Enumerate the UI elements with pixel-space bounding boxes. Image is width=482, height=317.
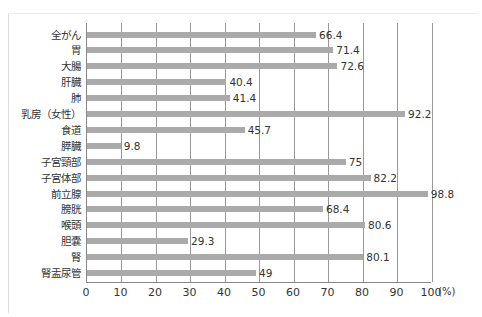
- value-label: 49: [256, 265, 272, 281]
- bar-row: 大腸72.6: [87, 58, 431, 74]
- gridline: [432, 23, 433, 282]
- value-label: 82.2: [371, 170, 397, 186]
- category-label: 全がん: [1, 27, 81, 43]
- x-tick-label: 80: [355, 286, 369, 299]
- value-label: 80.1: [363, 249, 389, 265]
- category-label: 食道: [1, 122, 81, 138]
- bar: [87, 32, 316, 38]
- category-label: 胃: [1, 42, 81, 58]
- bar: [87, 191, 428, 197]
- value-label: 9.8: [121, 138, 141, 154]
- x-tick-label: 20: [148, 286, 162, 299]
- bar-row: 食道45.7: [87, 122, 431, 138]
- bar-row: 胆嚢29.3: [87, 233, 431, 249]
- x-tick-label: 90: [390, 286, 404, 299]
- value-label: 29.3: [188, 233, 214, 249]
- bar-row: 肝臓40.4: [87, 74, 431, 90]
- bar: [87, 95, 230, 101]
- bar: [87, 79, 226, 85]
- value-label: 75: [346, 154, 362, 170]
- value-label: 45.7: [245, 122, 271, 138]
- bar-row: 子宮体部82.2: [87, 170, 431, 186]
- category-label: 前立腺: [1, 186, 81, 202]
- bar-row: 腎盂尿管49: [87, 265, 431, 281]
- bar-row: 乳房（女性）92.2: [87, 106, 431, 122]
- x-tick-label: 10: [114, 286, 128, 299]
- bar: [87, 111, 405, 117]
- x-axis-unit: (%): [438, 286, 455, 297]
- x-tick-label: 60: [286, 286, 300, 299]
- bar: [87, 270, 256, 276]
- x-tick-label: 40: [217, 286, 231, 299]
- bar: [87, 206, 323, 212]
- bar: [87, 238, 188, 244]
- value-label: 72.6: [337, 58, 363, 74]
- bar: [87, 222, 365, 228]
- value-label: 40.4: [226, 74, 252, 90]
- bar: [87, 47, 333, 53]
- x-tick-label: 70: [321, 286, 335, 299]
- bar: [87, 127, 245, 133]
- value-label: 80.6: [365, 217, 391, 233]
- bar-row: 子宮頸部75: [87, 154, 431, 170]
- plot-area: 全がん66.4胃71.4大腸72.6肝臓40.4肺41.4乳房（女性）92.2食…: [86, 23, 431, 283]
- category-label: 腎: [1, 249, 81, 265]
- bar: [87, 143, 121, 149]
- bar-row: 胃71.4: [87, 42, 431, 58]
- category-label: 腎盂尿管: [1, 265, 81, 281]
- value-label: 71.4: [333, 42, 359, 58]
- category-label: 喉頭: [1, 217, 81, 233]
- bar: [87, 63, 337, 69]
- category-label: 膀胱: [1, 201, 81, 217]
- bar-row: 腎80.1: [87, 249, 431, 265]
- bar-row: 肺41.4: [87, 90, 431, 106]
- value-label: 66.4: [316, 27, 342, 43]
- value-label: 68.4: [323, 201, 349, 217]
- bar: [87, 159, 346, 165]
- bar-row: 膵臓9.8: [87, 138, 431, 154]
- x-tick-label: 50: [252, 286, 266, 299]
- bar: [87, 254, 363, 260]
- value-label: 98.8: [428, 186, 454, 202]
- bar-row: 膀胱68.4: [87, 201, 431, 217]
- category-label: 大腸: [1, 58, 81, 74]
- category-label: 子宮頸部: [1, 154, 81, 170]
- bar-row: 前立腺98.8: [87, 186, 431, 202]
- value-label: 41.4: [230, 90, 256, 106]
- category-label: 肝臓: [1, 74, 81, 90]
- bar: [87, 175, 371, 181]
- bar-row: 喉頭80.6: [87, 217, 431, 233]
- bar-row: 全がん66.4: [87, 27, 431, 43]
- category-label: 膵臓: [1, 138, 81, 154]
- x-tick-label: 30: [183, 286, 197, 299]
- category-label: 乳房（女性）: [1, 106, 81, 122]
- category-label: 胆嚢: [1, 233, 81, 249]
- x-tick-label: 0: [83, 286, 90, 299]
- category-label: 肺: [1, 90, 81, 106]
- category-label: 子宮体部: [1, 170, 81, 186]
- value-label: 92.2: [405, 106, 431, 122]
